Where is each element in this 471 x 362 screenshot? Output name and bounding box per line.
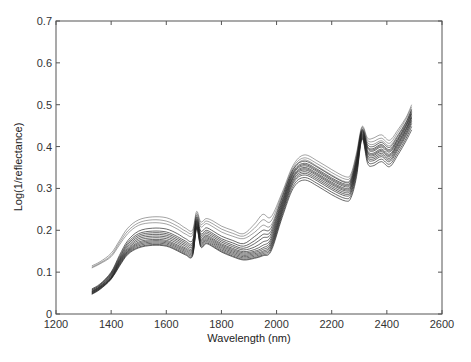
spectrum-line <box>92 126 412 293</box>
y-tick-label: 0.7 <box>37 15 52 27</box>
y-tick-label: 0.5 <box>37 99 52 111</box>
spectrum-line <box>92 120 412 293</box>
figure-caption <box>0 354 471 362</box>
x-tick-label: 2200 <box>319 318 343 330</box>
y-axis-ticks: 00.10.20.30.40.50.60.7 <box>37 15 442 320</box>
x-tick-label: 1600 <box>154 318 178 330</box>
x-tick-label: 1400 <box>99 318 123 330</box>
y-tick-label: 0 <box>46 308 52 320</box>
x-axis-title: Wavelength (nm) <box>207 332 290 344</box>
x-tick-label: 2600 <box>430 318 454 330</box>
y-tick-label: 0.1 <box>37 266 52 278</box>
spectrum-line <box>92 121 412 293</box>
spectra-line-chart: 12001400160018002000220024002600 00.10.2… <box>0 0 471 362</box>
y-tick-label: 0.3 <box>37 182 52 194</box>
y-tick-label: 0.2 <box>37 224 52 236</box>
x-tick-label: 2000 <box>264 318 288 330</box>
y-axis-title: Log(1/reflectance) <box>12 123 24 212</box>
spectrum-line <box>92 124 412 294</box>
y-tick-label: 0.6 <box>37 57 52 69</box>
x-tick-label: 1800 <box>209 318 233 330</box>
y-tick-label: 0.4 <box>37 141 52 153</box>
x-tick-label: 2400 <box>375 318 399 330</box>
spectra-lines <box>92 105 412 295</box>
spectrum-line <box>92 130 412 294</box>
